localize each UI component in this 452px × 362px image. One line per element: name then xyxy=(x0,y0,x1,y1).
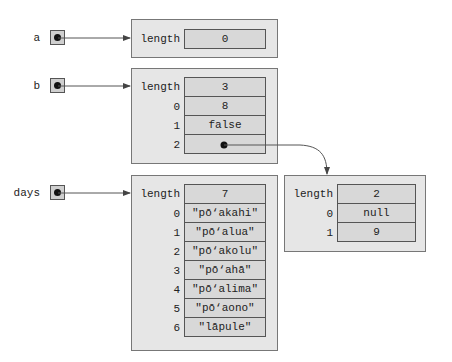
array-key: 0 xyxy=(132,97,180,117)
array-key: 3 xyxy=(132,261,180,281)
variable-label-b: b xyxy=(0,78,40,94)
array-cell-value: "pō‘aono" xyxy=(184,299,266,318)
array-cell-value: 0 xyxy=(184,29,266,49)
variable-label-a: a xyxy=(0,30,40,46)
variable-label-days: days xyxy=(0,185,40,201)
array-cell-reference xyxy=(184,135,266,154)
pointer-box-days xyxy=(50,185,65,200)
array-key: length xyxy=(132,29,180,49)
array-key: length xyxy=(132,77,180,97)
pointer-dot-icon xyxy=(54,82,61,89)
array-object-days: length 7 0 "pō‘akahi" 1 "pō‘alua" 2 "pō‘… xyxy=(131,175,278,351)
array-object-inner: length 2 0 null 1 9 xyxy=(284,175,426,252)
array-key: 0 xyxy=(285,204,333,224)
array-object-a: length 0 xyxy=(131,19,278,58)
array-key: 2 xyxy=(132,135,180,155)
array-cell-value: "pō‘akahi" xyxy=(184,204,266,223)
array-key: 1 xyxy=(132,116,180,136)
array-cell-value: 8 xyxy=(184,97,266,116)
array-key: 0 xyxy=(132,204,180,224)
array-cell-value: false xyxy=(184,116,266,135)
array-key: 6 xyxy=(132,318,180,338)
array-cell-value: 9 xyxy=(337,223,416,242)
pointer-box-a xyxy=(50,30,65,45)
array-cell-value: "pō‘ahā" xyxy=(184,261,266,280)
array-cell-value: null xyxy=(337,204,416,223)
array-key: length xyxy=(285,184,333,204)
pointer-dot-icon xyxy=(54,189,61,196)
array-key: 1 xyxy=(132,223,180,243)
array-key: 2 xyxy=(132,242,180,262)
array-cell-value: "lāpule" xyxy=(184,318,266,337)
pointer-dot-icon xyxy=(54,34,61,41)
array-cell-value: "pō‘alima" xyxy=(184,280,266,299)
array-object-b: length 3 0 8 1 false 2 xyxy=(131,68,278,164)
pointer-box-b xyxy=(50,78,65,93)
array-cell-value: 3 xyxy=(184,77,266,97)
array-cell-value: "pō‘akolu" xyxy=(184,242,266,261)
array-cell-value: 2 xyxy=(337,184,416,204)
array-key: length xyxy=(132,184,180,204)
array-key: 4 xyxy=(132,280,180,300)
array-key: 5 xyxy=(132,299,180,319)
array-key: 1 xyxy=(285,223,333,243)
array-cell-value: 7 xyxy=(184,184,266,204)
array-cell-value: "pō‘alua" xyxy=(184,223,266,242)
